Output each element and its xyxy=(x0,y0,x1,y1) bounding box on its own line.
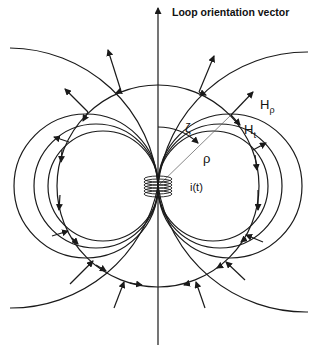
h-t-subscript: t xyxy=(253,130,256,140)
zeta-label: ζ xyxy=(185,120,191,135)
h-rho-subscript: ρ xyxy=(269,105,274,115)
h-rho-label: Hρ xyxy=(260,97,275,115)
h-t-label: Ht xyxy=(244,122,256,140)
field-lines-right xyxy=(158,52,308,312)
h-t-symbol: H xyxy=(244,122,253,137)
rho-label: ρ xyxy=(203,151,210,166)
loop-orientation-label: Loop orientation vector xyxy=(172,6,289,18)
current-label: i(t) xyxy=(190,181,203,193)
h-rho-symbol: H xyxy=(260,97,269,112)
dipole-field-diagram xyxy=(0,0,319,352)
